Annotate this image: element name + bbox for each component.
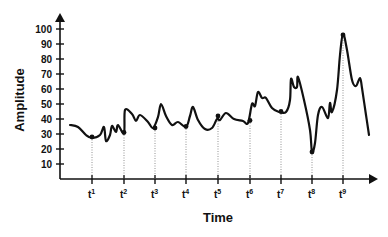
amplitude-time-chart: 102030405060708090100 t1t2t3t4t5t6t7t8t9… (0, 0, 388, 237)
marked-points (90, 33, 346, 155)
x-tick-label: t9 (339, 188, 346, 200)
y-tick-label: 30 (41, 129, 53, 140)
y-tick-label: 70 (41, 69, 53, 80)
x-axis-arrow-icon (369, 174, 378, 184)
point-marker (248, 118, 253, 123)
x-axis-title: Time (203, 210, 233, 225)
point-marker (90, 135, 95, 140)
amplitude-curve (70, 34, 369, 153)
y-tick-label: 90 (41, 39, 53, 50)
x-tick-label: t3 (151, 188, 158, 200)
point-marker (216, 114, 221, 119)
y-tick-label: 20 (41, 144, 53, 155)
x-tick-label: t4 (182, 188, 189, 200)
y-tick-label: 60 (41, 84, 53, 95)
point-marker (184, 124, 189, 129)
y-tick-label: 50 (41, 99, 53, 110)
y-tick-label: 100 (35, 24, 52, 35)
y-axis-title: Amplitude (12, 68, 27, 132)
y-tick-label: 80 (41, 54, 53, 65)
x-tick-label: t8 (308, 188, 315, 200)
point-marker (310, 150, 315, 155)
y-tick-label: 10 (41, 159, 53, 170)
x-tick-label: t2 (120, 188, 127, 200)
x-tick-label: t1 (88, 188, 95, 200)
y-axis-arrow-icon (55, 13, 65, 22)
point-marker (122, 130, 127, 135)
axes (55, 13, 378, 184)
point-marker (279, 109, 284, 114)
y-tick-label: 40 (41, 114, 53, 125)
x-tick-label: t5 (214, 188, 221, 200)
point-marker (153, 126, 158, 131)
x-tick-label: t7 (277, 188, 284, 200)
x-tick-label: t6 (246, 188, 253, 200)
point-marker (341, 33, 346, 38)
